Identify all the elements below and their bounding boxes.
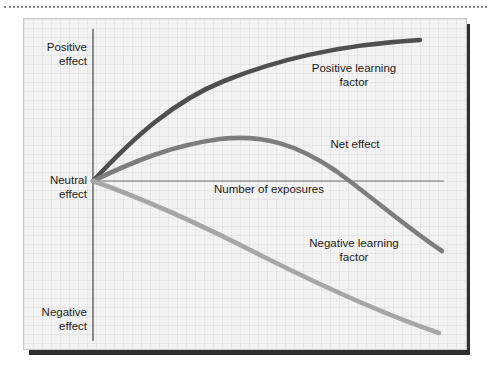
chart-figure: Positive effect Neutral effect Negative … — [0, 0, 491, 372]
chart-panel: Positive effect Neutral effect Negative … — [23, 18, 467, 350]
annotation-net-effect: Net effect — [300, 138, 410, 152]
y-axis-label-negative-effect-line1: Negative — [24, 306, 87, 320]
y-axis-label-negative-effect: Negative effect — [24, 306, 87, 333]
x-axis-label: Number of exposures — [174, 183, 364, 197]
y-axis-label-positive-effect: Positive effect — [24, 41, 87, 68]
y-axis-label-neutral-effect: Neutral effect — [24, 174, 87, 201]
y-axis-label-positive-effect-line2: effect — [24, 55, 87, 69]
y-axis-label-negative-effect-line2: effect — [24, 320, 87, 334]
annotation-positive-learning-factor: Positive learning factor — [289, 62, 419, 89]
annotation-positive-learning-factor-line2: factor — [289, 76, 419, 90]
annotation-negative-learning-factor-line1: Negative learning — [286, 237, 422, 251]
annotation-negative-learning-factor-line2: factor — [286, 251, 422, 265]
y-axis-label-neutral-effect-line1: Neutral — [24, 174, 87, 188]
top-dotted-rule — [4, 6, 487, 8]
y-axis-label-positive-effect-line1: Positive — [24, 41, 87, 55]
annotation-positive-learning-factor-line1: Positive learning — [289, 62, 419, 76]
y-axis-label-neutral-effect-line2: effect — [24, 188, 87, 202]
annotation-negative-learning-factor: Negative learning factor — [286, 237, 422, 264]
